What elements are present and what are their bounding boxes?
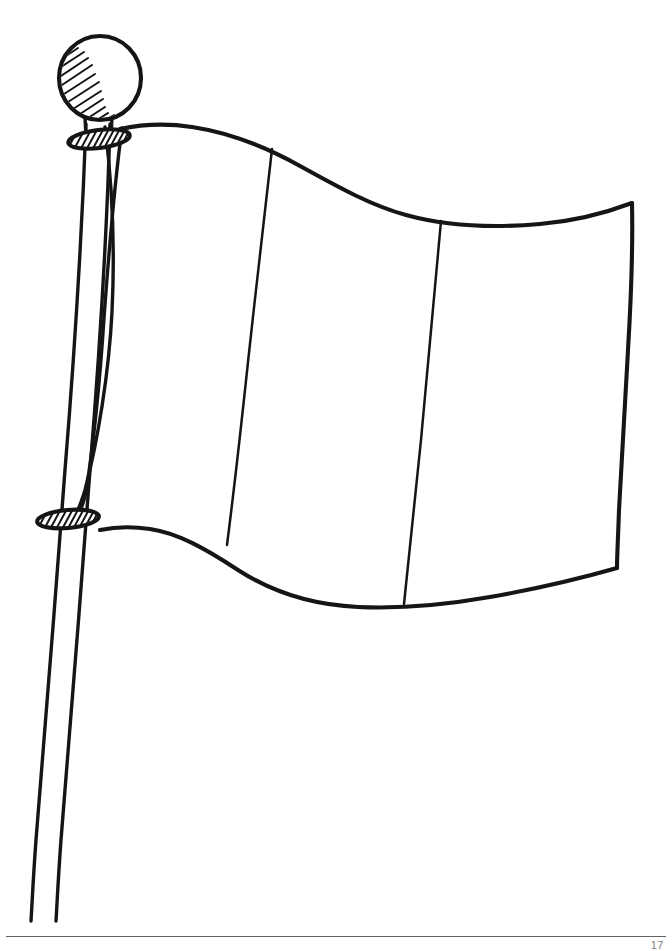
footer-divider-rule <box>6 936 666 937</box>
flag-body-fill <box>100 125 632 608</box>
lower-collar-ring-group <box>36 504 100 533</box>
flag-hoist-edge <box>70 128 122 525</box>
page-number: 17 <box>651 940 664 951</box>
flag-line-drawing: Black and white outline drawing of a rip… <box>0 0 672 951</box>
flag-cloth <box>70 125 632 608</box>
finial-ball-group <box>59 36 141 136</box>
upper-collar-ring-group <box>66 124 132 154</box>
illustration-page: Black and white outline drawing of a rip… <box>0 0 672 951</box>
